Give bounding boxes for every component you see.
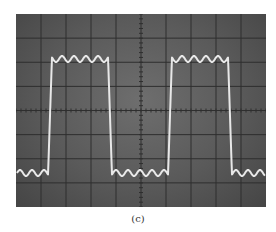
oscilloscope-screen: [16, 14, 266, 207]
figure-caption: (c): [0, 213, 276, 224]
graticule-grid: [16, 14, 266, 207]
oscilloscope-graticule-and-trace: [16, 14, 266, 207]
